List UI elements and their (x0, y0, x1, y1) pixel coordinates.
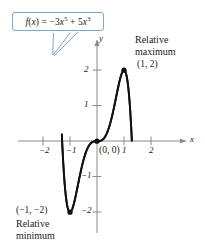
origin-point-label: (0, 0) (99, 145, 120, 156)
x-axis-arrow (180, 138, 186, 143)
equation-text: f(x) = −3x5 + 5x3 (26, 17, 91, 27)
relative-minimum-line1: Relative (16, 218, 49, 229)
relative-maximum-line2: maximum (135, 46, 176, 57)
y-axis-label: y (99, 33, 103, 43)
x-tick-label-neg1: −1 (66, 145, 77, 155)
max-point-label: (1, 2) (137, 59, 158, 70)
y-tick-label-2: 2 (84, 64, 89, 74)
eq-term2-exp: 3 (87, 14, 90, 21)
min-point-label: (−1, −2) (16, 205, 47, 216)
eq-term1-coef: −3 (50, 17, 60, 27)
y-tick-label-1: 1 (84, 99, 89, 109)
equation-callout-box: f(x) = −3x5 + 5x3 (12, 12, 104, 31)
y-tick-label-neg1: −1 (81, 170, 92, 180)
eq-plus: + (68, 17, 78, 27)
min-point-dot (67, 210, 72, 215)
origin-point-dot (94, 139, 99, 144)
eq-equals: = (39, 17, 49, 27)
relative-minimum-line2: minimum (16, 230, 55, 241)
x-tick-label-1: 1 (122, 145, 127, 155)
x-tick-label-2: 2 (149, 145, 154, 155)
callout-tail (53, 32, 78, 56)
x-axis-label: x (190, 134, 194, 144)
relative-maximum-line1: Relative (135, 34, 168, 45)
max-point-dot (121, 68, 126, 73)
y-tick-label-neg2: −2 (81, 205, 92, 215)
x-tick-label-neg2: −2 (39, 145, 50, 155)
figure-container: f(x) = −3x5 + 5x3 x y −2 −1 1 2 2 1 −1 −… (0, 0, 205, 249)
